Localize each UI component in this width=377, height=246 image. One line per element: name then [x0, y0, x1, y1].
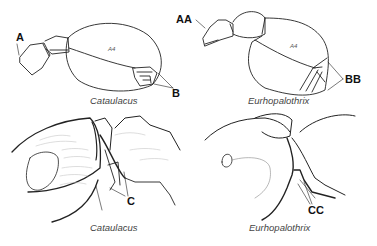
- caption-eurhopalothrix-bottom: Eurhopalothrix: [249, 223, 310, 233]
- label-c: C: [127, 196, 135, 207]
- segment-label-a4-right: A4: [290, 43, 297, 49]
- label-a: A: [16, 32, 24, 43]
- caption-eurhopalothrix-top: Eurhopalothrix: [248, 96, 309, 106]
- cataulacus-gaster-drawing: [17, 23, 173, 91]
- label-aa: AA: [176, 14, 192, 25]
- label-b: B: [172, 88, 180, 99]
- label-bb: BB: [345, 74, 361, 85]
- label-cc: CC: [308, 205, 324, 216]
- eurhopalothrix-gaster-drawing: [196, 12, 343, 95]
- cataulacus-lateral-drawing: [12, 116, 180, 222]
- caption-cataulacus-top: Cataulacus: [90, 96, 138, 106]
- segment-label-a4-left: A4: [108, 46, 115, 52]
- eurhopalothrix-lateral-drawing: [205, 114, 355, 220]
- caption-cataulacus-bottom: Cataulacus: [90, 223, 138, 233]
